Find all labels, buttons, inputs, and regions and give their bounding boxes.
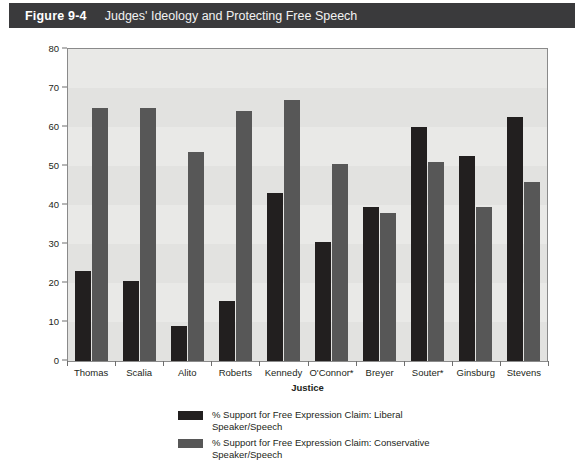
bar-conservative	[428, 162, 444, 361]
bar-liberal	[315, 242, 331, 361]
bars-layer	[68, 49, 547, 361]
x-axis-tick-marks	[67, 361, 548, 366]
bar-conservative	[524, 182, 540, 361]
bar-liberal	[123, 281, 139, 361]
bar-group	[116, 49, 164, 361]
x-axis-label-alito: Alito	[163, 367, 211, 378]
x-axis-title: Justice	[67, 382, 548, 393]
x-axis-labels: ThomasScaliaAlitoRobertsKennedyO'Connor*…	[67, 367, 548, 378]
y-axis-tick-label: 50	[24, 160, 59, 171]
x-axis-tick-mark	[356, 361, 357, 366]
bar-group	[260, 49, 308, 361]
bar-liberal	[411, 127, 427, 361]
legend-label: % Support for Free Expression Claim: Lib…	[212, 409, 442, 433]
bar-group	[164, 49, 212, 361]
x-axis-tick-mark	[211, 361, 212, 366]
y-axis-tick-label: 20	[24, 277, 59, 288]
x-axis-label-thomas: Thomas	[67, 367, 115, 378]
bar-liberal	[363, 207, 379, 361]
bar-liberal	[267, 193, 283, 361]
bar-liberal	[507, 117, 523, 361]
x-axis-tick-mark	[500, 361, 501, 366]
bar-liberal	[171, 326, 187, 361]
bar-liberal	[75, 271, 91, 361]
x-axis-tick-mark	[115, 361, 116, 366]
x-axis-label-scalia: Scalia	[115, 367, 163, 378]
bar-group	[451, 49, 499, 361]
x-axis-tick-mark	[404, 361, 405, 366]
legend-item: % Support for Free Expression Claim: Lib…	[178, 409, 508, 433]
bar-conservative	[92, 108, 108, 362]
x-axis-tick-mark	[67, 361, 68, 366]
bar-conservative	[284, 100, 300, 361]
y-axis-tick-label: 30	[24, 238, 59, 249]
legend-swatch-liberal	[178, 411, 203, 420]
legend-label: % Support for Free Expression Claim: Con…	[212, 437, 442, 461]
x-axis-label-breyer: Breyer	[356, 367, 404, 378]
y-axis-tick-label: 40	[24, 199, 59, 210]
y-axis-tick-label: 60	[24, 121, 59, 132]
x-axis-label-souter: Souter*	[404, 367, 452, 378]
x-axis-label-stevens: Stevens	[500, 367, 548, 378]
bar-liberal	[459, 156, 475, 361]
plot-area	[67, 48, 548, 362]
bar-conservative	[332, 164, 348, 361]
bar-group	[499, 49, 547, 361]
x-axis-tick-mark	[163, 361, 164, 366]
bar-group	[68, 49, 116, 361]
bar-group	[403, 49, 451, 361]
bar-conservative	[236, 111, 252, 361]
bar-conservative	[380, 213, 396, 361]
x-axis-label-kennedy: Kennedy	[259, 367, 307, 378]
y-axis-tick-label: 10	[24, 316, 59, 327]
bar-group	[212, 49, 260, 361]
chart-container: 01020304050607080 ThomasScaliaAlitoRober…	[0, 30, 583, 471]
figure-header-bar: Figure 9-4 Judges' Ideology and Protecti…	[9, 3, 575, 28]
bar-group	[355, 49, 403, 361]
bar-conservative	[140, 108, 156, 362]
bar-group	[308, 49, 356, 361]
y-axis: 01020304050607080	[32, 48, 67, 361]
legend-item: % Support for Free Expression Claim: Con…	[178, 437, 508, 461]
figure-number: Figure 9-4	[25, 9, 87, 23]
figure-title: Judges' Ideology and Protecting Free Spe…	[105, 9, 358, 23]
x-axis-tick-mark	[308, 361, 309, 366]
y-axis-tick-label: 80	[24, 43, 59, 54]
bar-conservative	[476, 207, 492, 361]
x-axis-tick-mark	[452, 361, 453, 366]
x-axis-label-ginsburg: Ginsburg	[452, 367, 500, 378]
x-axis-tick-mark	[548, 361, 549, 366]
bar-liberal	[219, 301, 235, 361]
y-axis-tick-label: 0	[24, 355, 59, 366]
chart-legend: % Support for Free Expression Claim: Lib…	[178, 409, 508, 465]
x-axis-label-oconnor: O'Connor*	[307, 367, 355, 378]
legend-swatch-conservative	[178, 439, 203, 448]
x-axis-label-roberts: Roberts	[211, 367, 259, 378]
x-axis-tick-mark	[259, 361, 260, 366]
bar-conservative	[188, 152, 204, 361]
y-axis-tick-label: 70	[24, 82, 59, 93]
